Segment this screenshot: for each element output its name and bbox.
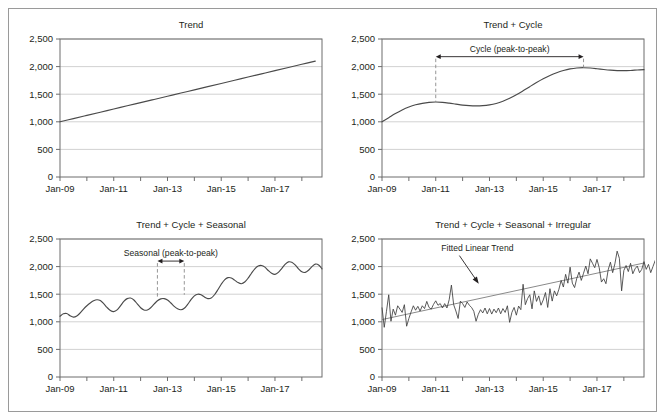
ytick-label: 1,000	[351, 316, 375, 327]
plot-background	[60, 239, 322, 377]
xtick-label: Jan-11	[100, 383, 128, 394]
plot-background	[60, 39, 322, 177]
xtick-label: Jan-13	[153, 383, 182, 394]
panel-grid: Trend05001,0001,5002,0002,500Jan-09Jan-1…	[9, 9, 656, 411]
xtick-label: Jan-15	[529, 183, 558, 194]
annotation-label: Fitted Linear Trend	[441, 243, 513, 253]
xtick-label: Jan-11	[100, 183, 128, 194]
xtick-label: Jan-13	[153, 183, 182, 194]
ytick-label: 2,500	[351, 33, 375, 44]
panel-trend: Trend05001,0001,5002,0002,500Jan-09Jan-1…	[11, 11, 333, 211]
chart-trend-cycle-seasonal: Trend + Cycle + Seasonal05001,0001,5002,…	[11, 211, 333, 411]
ytick-label: 1,500	[29, 89, 53, 100]
chart-trend-cycle-seasonal-irregular: Trend + Cycle + Seasonal + Irregular0500…	[333, 211, 655, 411]
ytick-label: 0	[48, 371, 53, 382]
ytick-label: 500	[359, 344, 375, 355]
xtick-label: Jan-15	[207, 183, 236, 194]
ytick-label: 2,500	[29, 233, 53, 244]
ytick-label: 0	[370, 171, 375, 182]
xtick-label: Jan-13	[475, 183, 504, 194]
ytick-label: 2,500	[351, 233, 375, 244]
xtick-label: Jan-13	[475, 383, 504, 394]
ytick-label: 2,000	[29, 261, 53, 272]
xtick-label: Jan-09	[367, 183, 396, 194]
xtick-label: Jan-09	[45, 183, 74, 194]
panel-trend-cycle-seasonal-irregular: Trend + Cycle + Seasonal + Irregular0500…	[333, 211, 655, 411]
chart-title: Trend + Cycle	[483, 19, 542, 30]
ytick-label: 2,000	[351, 61, 375, 72]
ytick-label: 2,000	[29, 61, 53, 72]
ytick-label: 2,500	[29, 33, 53, 44]
ytick-label: 1,500	[29, 289, 53, 300]
ytick-label: 0	[48, 171, 53, 182]
ytick-label: 500	[359, 144, 375, 155]
annotation-label: Seasonal (peak-to-peak)	[124, 248, 218, 258]
panel-trend-cycle: Trend + Cycle05001,0001,5002,0002,500Jan…	[333, 11, 655, 211]
ytick-label: 2,000	[351, 261, 375, 272]
xtick-label: Jan-15	[207, 383, 236, 394]
chart-trend-cycle: Trend + Cycle05001,0001,5002,0002,500Jan…	[333, 11, 655, 211]
ytick-label: 1,500	[351, 89, 375, 100]
ytick-label: 500	[37, 344, 53, 355]
xtick-label: Jan-11	[422, 383, 450, 394]
chart-title: Trend + Cycle + Seasonal	[136, 219, 246, 230]
ytick-label: 1,000	[351, 116, 375, 127]
ytick-label: 1,000	[29, 116, 53, 127]
panel-trend-cycle-seasonal: Trend + Cycle + Seasonal05001,0001,5002,…	[11, 211, 333, 411]
chart-title: Trend + Cycle + Seasonal + Irregular	[435, 219, 591, 230]
xtick-label: Jan-09	[367, 383, 396, 394]
xtick-label: Jan-17	[260, 383, 289, 394]
xtick-label: Jan-17	[260, 183, 289, 194]
chart-trend: Trend05001,0001,5002,0002,500Jan-09Jan-1…	[11, 11, 333, 211]
ytick-label: 1,500	[351, 289, 375, 300]
chart-title: Trend	[179, 19, 203, 30]
xtick-label: Jan-17	[582, 183, 611, 194]
ytick-label: 500	[37, 144, 53, 155]
xtick-label: Jan-09	[45, 383, 74, 394]
xtick-label: Jan-17	[582, 383, 611, 394]
plot-background	[382, 39, 644, 177]
figure-frame: Trend05001,0001,5002,0002,500Jan-09Jan-1…	[8, 8, 657, 412]
xtick-label: Jan-11	[422, 183, 450, 194]
ytick-label: 0	[370, 371, 375, 382]
xtick-label: Jan-15	[529, 383, 558, 394]
ytick-label: 1,000	[29, 316, 53, 327]
annotation-label: Cycle (peak-to-peak)	[470, 44, 550, 54]
